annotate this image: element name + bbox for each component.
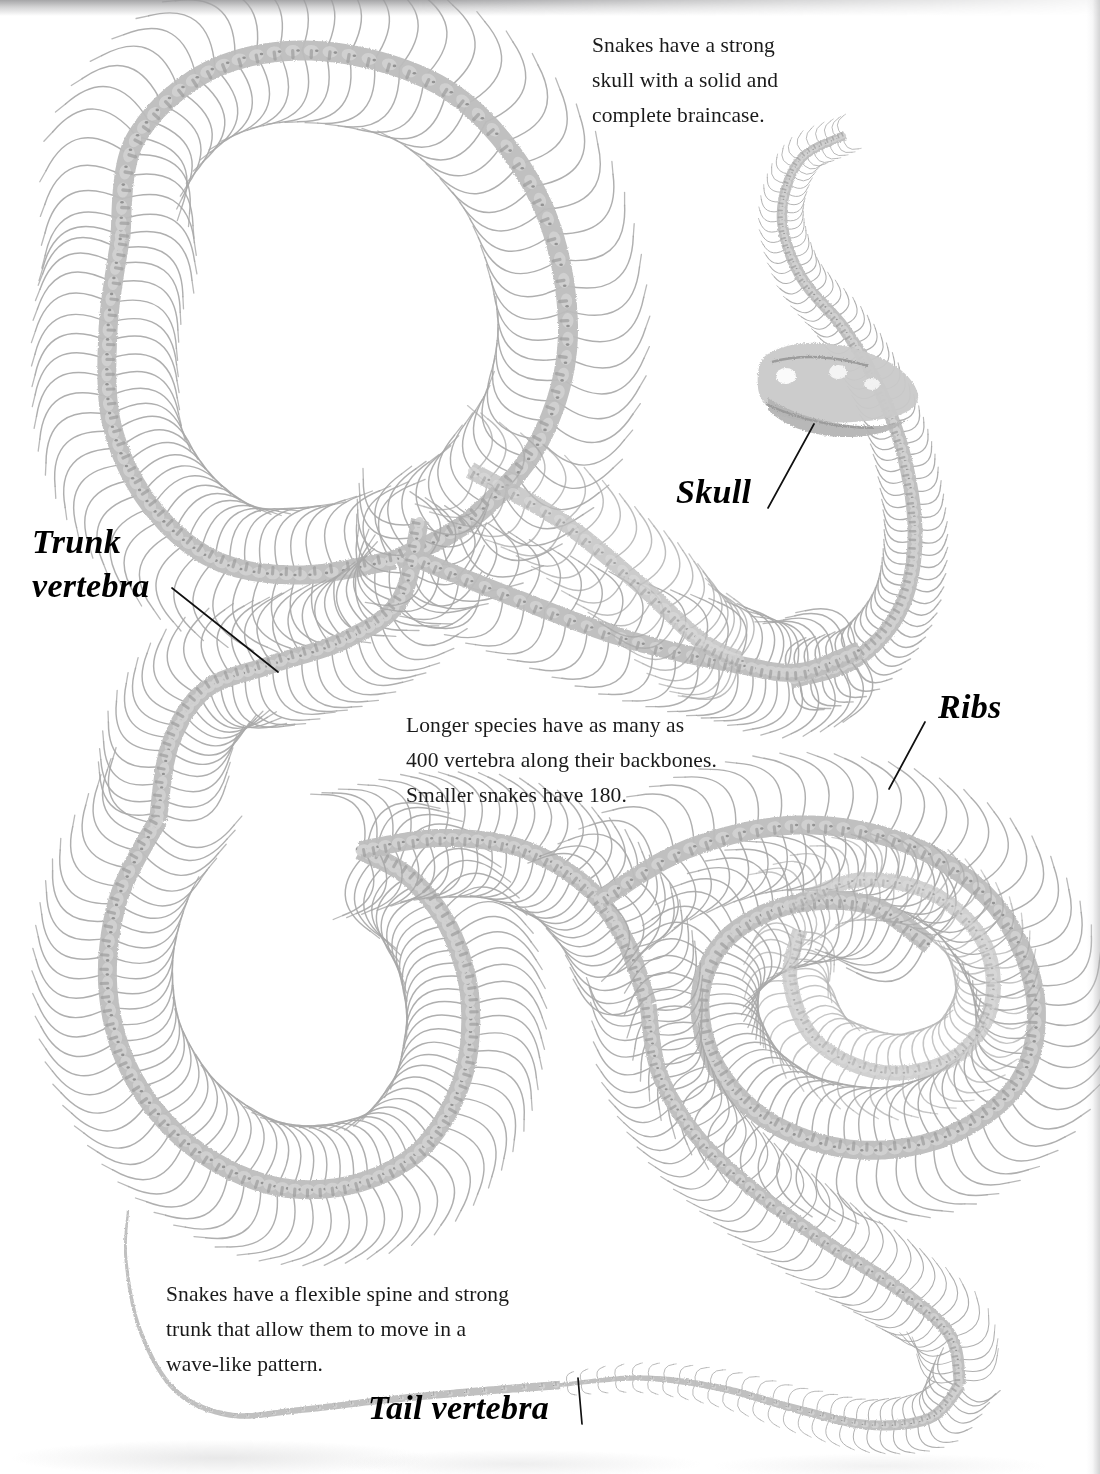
- book-page: Snakes have a strong skull with a solid …: [0, 0, 1100, 1474]
- label-skull: Skull: [676, 470, 751, 514]
- label-trunk-vertebra: Trunk vertebra: [32, 520, 150, 608]
- caption-skull: Snakes have a strong skull with a solid …: [592, 28, 852, 133]
- skull-leader: [768, 424, 814, 508]
- caption-vertebra-count: Longer species have as many as 400 verte…: [406, 708, 806, 813]
- label-ribs: Ribs: [938, 685, 1002, 729]
- caption-flexible-spine: Snakes have a flexible spine and strong …: [166, 1277, 596, 1382]
- label-tail-vertebra: Tail vertebra: [368, 1386, 549, 1430]
- ribs-leader: [889, 722, 925, 789]
